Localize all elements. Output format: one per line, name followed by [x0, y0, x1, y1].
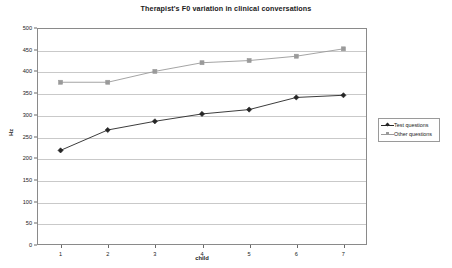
data-point — [200, 61, 204, 65]
data-point — [106, 80, 110, 84]
data-point — [294, 95, 299, 100]
data-point — [294, 54, 298, 58]
x-axis-tick-mark — [344, 245, 345, 248]
y-axis-tick-label: 450 — [23, 47, 32, 53]
y-axis-tick-label: 300 — [23, 112, 32, 118]
data-point — [247, 59, 251, 63]
x-axis-tick-mark — [250, 245, 251, 248]
chart-figure: Therapist's F0 variation in clinical con… — [0, 0, 452, 268]
data-point — [199, 111, 204, 116]
y-axis-tick-label: 400 — [23, 68, 32, 74]
legend-label: Test questions — [394, 121, 428, 130]
y-axis-tick-labels: 050100150200250300350400450500 — [0, 28, 37, 245]
series-1 — [58, 93, 346, 153]
y-axis-tick-label: 250 — [23, 134, 32, 140]
data-point — [58, 148, 63, 153]
y-axis-tick-label: 350 — [23, 90, 32, 96]
square-marker-icon — [381, 130, 394, 139]
data-point — [59, 80, 63, 84]
data-point — [341, 93, 346, 98]
legend-item[interactable]: Other questions — [381, 130, 437, 139]
data-point — [153, 69, 157, 73]
x-axis-tick-mark — [297, 245, 298, 248]
series-line — [61, 95, 344, 150]
legend-item[interactable]: Test questions — [381, 121, 437, 130]
x-axis-tick-mark — [155, 245, 156, 248]
diamond-marker-icon — [381, 121, 394, 130]
legend-label: Other questions — [394, 130, 432, 139]
data-point — [341, 47, 345, 51]
x-axis-tick-mark — [61, 245, 62, 248]
data-point — [105, 127, 110, 132]
series-line — [61, 49, 344, 82]
chart-title: Therapist's F0 variation in clinical con… — [0, 4, 452, 13]
x-axis-tick-mark — [203, 245, 204, 248]
y-axis-tick-label: 100 — [23, 199, 32, 205]
y-axis-tick-label: 200 — [23, 155, 32, 161]
y-axis-tick-label: 150 — [23, 177, 32, 183]
series-layer — [37, 28, 367, 245]
data-point — [247, 107, 252, 112]
series-2 — [59, 47, 346, 84]
y-axis-tick-label: 0 — [29, 242, 32, 248]
chart-legend: Test questionsOther questions — [378, 118, 440, 142]
x-axis-title: child — [37, 255, 367, 261]
x-axis-tick-mark — [108, 245, 109, 248]
y-axis-tick-label: 500 — [23, 25, 32, 31]
y-axis-tick-label: 50 — [26, 220, 32, 226]
data-point — [152, 119, 157, 124]
